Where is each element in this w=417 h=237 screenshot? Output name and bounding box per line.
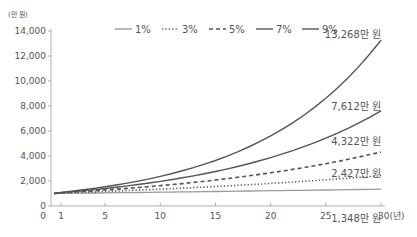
end-label-7pct: 7,612만 원 <box>331 101 381 112</box>
end-label-5pct: 4,322만 원 <box>331 136 381 147</box>
x-tick-label: 20 <box>265 211 277 221</box>
y-tick-label: 4,000 <box>20 151 46 161</box>
y-tick-label: 6,000 <box>20 126 46 136</box>
y-tick-label: 8,000 <box>20 101 46 111</box>
x-tick-label: 1 <box>58 211 64 221</box>
x-tick-label: 10 <box>155 211 167 221</box>
y-axis: 02,0004,0006,0008,00010,00012,00014,000 <box>15 26 52 211</box>
x-tick-label: 15 <box>210 211 221 221</box>
y-tick-label: 14,000 <box>15 26 47 36</box>
y-axis-unit-label: (만 원) <box>8 10 28 19</box>
x-tick-label: 30(년) <box>378 211 404 221</box>
y-tick-label: 0 <box>40 201 46 211</box>
x-tick-label: 0 <box>40 211 46 221</box>
end-label-3pct: 2,427만 원 <box>331 168 381 179</box>
legend-label-3pct: 3% <box>182 24 198 35</box>
series-line-7pct <box>54 111 381 194</box>
x-tick-label: 25 <box>320 211 331 221</box>
legend-label-7pct: 7% <box>276 24 292 35</box>
x-tick-label: 5 <box>102 211 108 221</box>
y-tick-label: 12,000 <box>15 51 47 61</box>
compound-growth-chart: (만 원) 02,0004,0006,0008,00010,00012,0001… <box>0 0 417 237</box>
y-tick-label: 10,000 <box>15 76 47 86</box>
legend: 1%3%5%7%9% <box>115 24 338 35</box>
legend-label-1pct: 1% <box>135 24 151 35</box>
legend-label-9pct: 9% <box>322 24 338 35</box>
legend-label-5pct: 5% <box>229 24 245 35</box>
end-label-1pct: 1,348만 원 <box>331 213 381 224</box>
y-tick-label: 2,000 <box>20 176 46 186</box>
